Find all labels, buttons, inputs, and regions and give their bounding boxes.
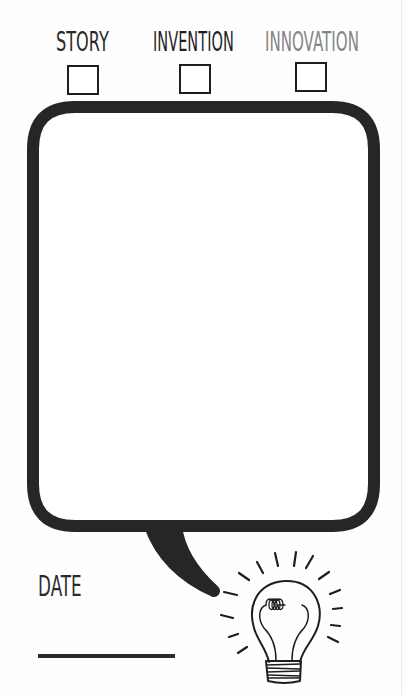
- worksheet-page: STORY INVENTION INNOVATION: [0, 0, 405, 695]
- date-underline: [38, 654, 175, 658]
- bubble-writing-area[interactable]: [40, 114, 372, 524]
- date-field[interactable]: [38, 628, 179, 654]
- bulb-base-icon: [266, 661, 301, 683]
- date-label: DATE: [38, 572, 82, 602]
